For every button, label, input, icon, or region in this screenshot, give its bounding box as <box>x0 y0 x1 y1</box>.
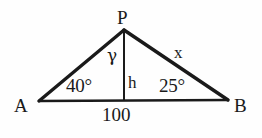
segment-label-base: 100 <box>102 105 131 124</box>
angle-label-at-a: 40° <box>66 76 92 95</box>
segment-label-height: h <box>128 74 137 91</box>
vertex-label-p: P <box>117 8 128 27</box>
triangle-graphic <box>0 0 262 138</box>
angle-label-at-b: 25° <box>159 76 185 95</box>
vertex-label-b: B <box>234 96 247 115</box>
angle-label-gamma: γ <box>107 47 117 64</box>
base-AB-line <box>39 100 228 101</box>
vertex-label-a: A <box>14 96 28 115</box>
segment-label-x: x <box>174 44 183 61</box>
triangle-diagram: P A B 40° 25° γ h x 100 <box>0 0 262 138</box>
